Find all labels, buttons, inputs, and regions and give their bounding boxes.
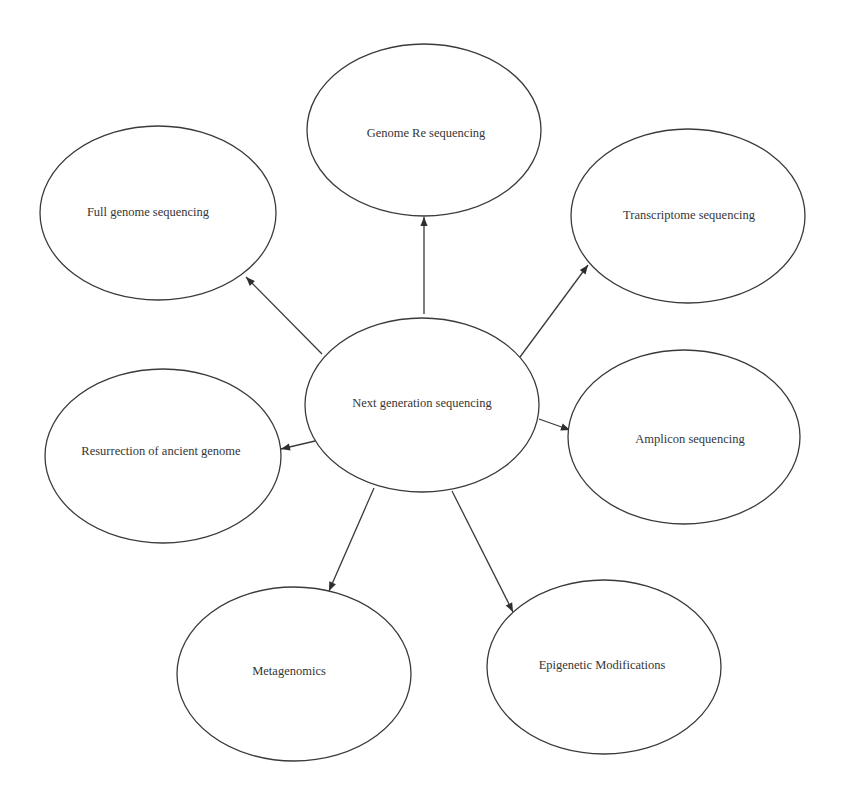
node-genome-resequencing: Genome Re sequencing (307, 44, 541, 216)
connector-line (452, 491, 513, 612)
node-label: Metagenomics (252, 664, 326, 678)
edge-arrow-metagenomics (329, 488, 374, 591)
node-label: Epigenetic Modifications (539, 658, 666, 672)
nodes-layer: Next generation sequencingGenome Re sequ… (40, 44, 805, 761)
node-metagenomics: Metagenomics (177, 587, 411, 761)
arrowhead-icon (329, 581, 336, 591)
connector-line (246, 277, 322, 354)
ngs-applications-diagram: Next generation sequencingGenome Re sequ… (0, 0, 843, 800)
connector-line (329, 488, 374, 591)
node-label: Next generation sequencing (352, 396, 492, 410)
center-node-ngs: Next generation sequencing (305, 318, 539, 492)
edge-arrow-resurrection-ancient-genome (281, 441, 315, 450)
arrowhead-icon (580, 265, 588, 274)
arrowhead-icon (506, 602, 513, 612)
edge-arrow-full-genome-sequencing (246, 277, 322, 354)
node-label: Amplicon sequencing (635, 432, 745, 446)
node-amplicon-sequencing: Amplicon sequencing (568, 350, 800, 524)
arrowhead-icon (420, 217, 427, 226)
node-label: Transcriptome sequencing (623, 208, 756, 222)
node-resurrection-ancient-genome: Resurrection of ancient genome (45, 369, 281, 543)
edge-arrow-transcriptome-sequencing (520, 265, 588, 357)
node-full-genome-sequencing: Full genome sequencing (40, 126, 276, 300)
node-label: Resurrection of ancient genome (81, 444, 241, 458)
edge-arrow-amplicon-sequencing (539, 419, 570, 430)
node-label: Full genome sequencing (87, 205, 210, 219)
node-label: Genome Re sequencing (367, 126, 486, 140)
edge-arrow-genome-resequencing (420, 217, 427, 314)
connector-line (520, 265, 588, 357)
edge-arrow-epigenetic-modifications (452, 491, 513, 612)
node-transcriptome-sequencing: Transcriptome sequencing (571, 129, 805, 303)
node-epigenetic-modifications: Epigenetic Modifications (487, 580, 721, 754)
arrowhead-icon (281, 443, 291, 450)
